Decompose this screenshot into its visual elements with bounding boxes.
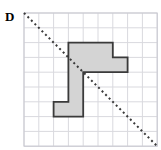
figure-container: D [0,0,161,150]
dashed-diagonal-line [24,13,157,146]
grid-diagram [0,0,161,150]
